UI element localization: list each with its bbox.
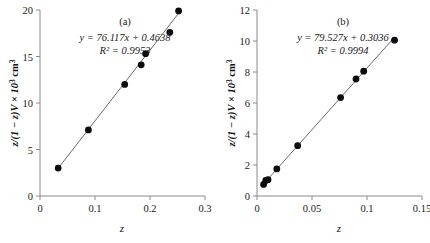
data-point [85, 127, 92, 134]
y-tick-label: 15 [23, 52, 34, 63]
y-axis-title-unit-a: cm [9, 63, 20, 79]
y-tick-label: 0 [245, 191, 250, 202]
y-tick-labels-a: 0 5 10 15 20 [23, 5, 34, 202]
x-axis-title-a: z [119, 222, 125, 234]
svg-text:z/(1 − z)V × 103 cm3: z/(1 − z)V × 103 cm3 [225, 59, 238, 147]
y-tick-labels-b: 0 2 4 6 8 10 12 [240, 5, 251, 202]
y-ticks-b [253, 10, 257, 196]
data-point [360, 68, 367, 75]
x-tick-label: 0.2 [143, 203, 156, 214]
r-squared-b: R² = 0.9994 [317, 45, 370, 56]
svg-text:z/(1 − z)V × 103 cm3: z/(1 − z)V × 103 cm3 [8, 59, 21, 147]
x-axis-title-b: z [336, 222, 342, 234]
x-tick-label: 0.1 [360, 203, 373, 214]
data-point [121, 81, 128, 88]
y-tick-label: 2 [245, 160, 250, 171]
data-point [55, 165, 62, 172]
data-point [166, 29, 173, 36]
x-tick-label: 0.3 [198, 203, 211, 214]
data-point [138, 61, 145, 68]
x-tick-label: 0.1 [88, 203, 101, 214]
y-axis-title-lead-a: z/(1 − z)V × 10 [9, 82, 21, 147]
data-point [175, 8, 182, 15]
data-point [353, 76, 360, 83]
x-tick-labels-b: 0 0.05 0.1 0.15 [254, 203, 430, 214]
y-axis-title-unit-b: cm [226, 63, 237, 79]
y-ticks-a [36, 10, 40, 196]
y-axis-title-a: z/(1 − z)V × 103 cm3 [8, 59, 21, 147]
panel-label-a: (a) [119, 16, 131, 28]
data-point [294, 142, 301, 149]
y-axis-title-unit-exp-a: 3 [8, 59, 17, 63]
y-tick-label: 0 [28, 191, 33, 202]
regression-equation-b: y = 79.527x + 0.3036 [296, 32, 389, 43]
y-tick-label: 10 [240, 36, 251, 47]
data-point [142, 50, 149, 57]
y-tick-label: 4 [245, 129, 251, 140]
scatter-plot-a: 0 5 10 15 20 0 0.1 0.2 0.3 z z/(1 [0, 0, 215, 243]
data-point [337, 94, 344, 101]
scatter-plot-b: 0 2 4 6 8 10 12 0 0.05 0.1 0.15 z [215, 0, 430, 243]
y-tick-label: 8 [245, 67, 250, 78]
y-tick-label: 20 [23, 5, 34, 16]
data-point [391, 37, 398, 44]
x-ticks-a [40, 196, 205, 200]
x-tick-labels-a: 0 0.1 0.2 0.3 [37, 203, 211, 214]
chart-panel-b: 0 2 4 6 8 10 12 0 0.05 0.1 0.15 z [215, 0, 430, 243]
data-point [265, 176, 272, 183]
y-axis-title-b: z/(1 − z)V × 103 cm3 [225, 59, 238, 147]
figure-container: 0 5 10 15 20 0 0.1 0.2 0.3 z z/(1 [0, 0, 430, 243]
y-tick-label: 5 [28, 145, 33, 156]
x-ticks-b [257, 196, 422, 200]
x-tick-label: 0.15 [413, 203, 430, 214]
y-tick-label: 12 [240, 5, 251, 16]
x-tick-label: 0 [37, 203, 42, 214]
chart-panel-a: 0 5 10 15 20 0 0.1 0.2 0.3 z z/(1 [0, 0, 215, 243]
y-axis-title-unit-exp-b: 3 [225, 59, 234, 63]
y-tick-label: 10 [23, 98, 34, 109]
data-point [273, 165, 280, 172]
y-axis-title-lead-b: z/(1 − z)V × 10 [226, 82, 238, 147]
x-tick-label: 0.05 [303, 203, 321, 214]
y-tick-label: 6 [245, 98, 250, 109]
x-tick-label: 0 [254, 203, 259, 214]
regression-line-b [264, 37, 395, 184]
panel-label-b: (b) [337, 16, 350, 28]
